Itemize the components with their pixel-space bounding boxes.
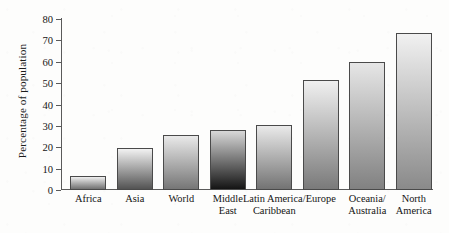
y-axis-tick-label: 30 — [42, 120, 53, 131]
y-axis-title: Percentage of population — [13, 6, 31, 196]
y-axis-tick-label: 70 — [42, 35, 53, 46]
bar-latin-america-caribbean — [256, 125, 292, 190]
bar-middle-east — [210, 130, 246, 190]
bar-oceania-australia — [349, 62, 385, 190]
x-axis-label-line2: America — [377, 205, 449, 217]
bar-north-america — [396, 33, 432, 190]
x-axis-label-line1: Asia — [125, 193, 144, 204]
y-axis-tick — [56, 190, 61, 191]
y-axis-tick-label: 10 — [42, 163, 53, 174]
bar-africa — [70, 176, 106, 190]
bars-layer — [61, 18, 433, 190]
x-axis-label-line1: North — [402, 193, 426, 204]
y-axis-tick-label: 80 — [42, 14, 53, 25]
bar-europe — [303, 80, 339, 190]
y-axis-tick-label: 40 — [42, 99, 53, 110]
x-axis-label-line2: Caribbean — [237, 205, 311, 217]
y-axis-tick-label: 60 — [42, 56, 53, 67]
y-axis-tick-label: 50 — [42, 78, 53, 89]
plot-area: 80706050403020100 — [61, 18, 433, 192]
bar-chart-figure: Percentage of population 807060504030201… — [0, 0, 449, 233]
bar-asia — [117, 148, 153, 190]
x-axis-labels: AfricaAsiaWorldMiddleEastLatin America/C… — [61, 193, 433, 233]
bar-world — [163, 135, 199, 190]
y-axis-tick-label: 20 — [42, 142, 53, 153]
x-axis-label: NorthAmerica — [377, 193, 449, 218]
